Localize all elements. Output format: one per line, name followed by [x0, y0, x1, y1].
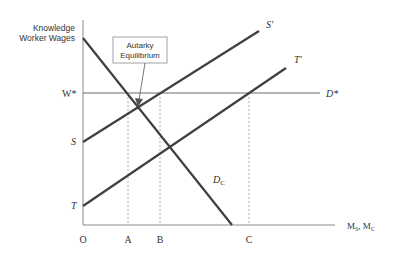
x-axis-label: MS, MC	[347, 221, 375, 232]
supply-S-prime-label: S'	[266, 19, 274, 30]
y-axis-label-1: Knowledge	[33, 23, 75, 33]
supply-curve-T	[83, 68, 286, 206]
callout-arrow	[139, 63, 145, 100]
tick-A-label: A	[124, 234, 132, 245]
trade-diagram: Knowledge Worker Wages Autarky Equilibri…	[0, 0, 395, 260]
supply-S-label: S	[71, 136, 76, 147]
callout-line-1: Autarky	[126, 41, 153, 50]
tick-C-label: C	[246, 234, 253, 245]
callout-line-2: Equilibrium	[120, 51, 160, 60]
wage-label: W*	[62, 88, 76, 99]
demand-label: DC	[212, 174, 225, 187]
supply-T-label: T	[71, 200, 78, 211]
origin-label: O	[79, 234, 86, 245]
diagram-svg: Knowledge Worker Wages Autarky Equilibri…	[0, 0, 395, 260]
supply-curve-S	[83, 31, 259, 142]
world-demand-label: D*	[325, 88, 338, 99]
demand-curve	[83, 38, 232, 225]
tick-B-label: B	[157, 234, 164, 245]
supply-T-prime-label: T'	[294, 54, 303, 65]
y-axis-label-2: Worker Wages	[19, 33, 75, 43]
